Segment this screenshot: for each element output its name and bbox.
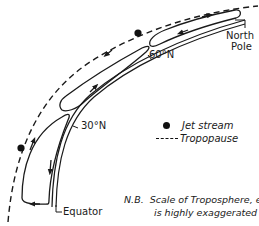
north-pole-label-line1: North: [226, 30, 254, 41]
equator-label: Equator: [63, 206, 102, 217]
lat-30n-label: 30°N: [81, 120, 106, 131]
tick-30n: [73, 126, 78, 128]
tick-equator: [56, 205, 62, 212]
legend-tropopause-label: Tropopause: [180, 133, 238, 144]
scale-note-line2: is highly exaggerated: [154, 207, 257, 219]
tropopause-legend-icon: [156, 138, 178, 139]
lat-60n-label: 60°N: [149, 49, 174, 60]
jet-stream-marker-subtropical: [17, 144, 24, 151]
jet-stream-marker-polar: [134, 29, 141, 36]
note-prefix: N.B.: [124, 194, 144, 205]
legend-tropopause: Tropopause: [156, 133, 238, 144]
ferrel-cell: [60, 46, 149, 110]
legend-jet-stream-label: Jet stream: [182, 120, 233, 131]
north-pole-label: North Pole: [226, 30, 254, 52]
jet-stream-legend-icon: [163, 122, 170, 129]
note-line1: Scale of Troposphere, etc.,: [150, 194, 259, 205]
tropopause-line: [8, 6, 258, 222]
circulation-diagram: [0, 0, 259, 226]
scale-note: N.B.Scale of Troposphere, etc.,: [124, 194, 259, 206]
legend-jet-stream: Jet stream: [163, 120, 233, 131]
north-pole-label-line2: Pole: [226, 41, 254, 52]
hadley-cell: [22, 114, 69, 204]
